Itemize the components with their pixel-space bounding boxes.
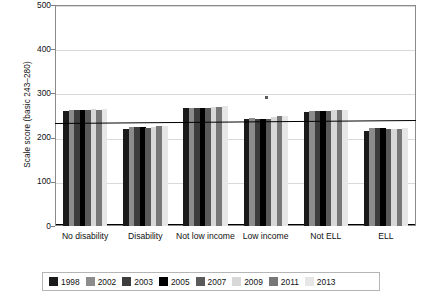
legend-label: 2009 <box>244 277 263 287</box>
y-tick-mark-400 <box>51 49 55 50</box>
bar-chart: Scale score (basic 243–280) 010020030040… <box>0 0 423 306</box>
gridline-200 <box>56 139 415 140</box>
y-tick-mark-0 <box>51 226 55 227</box>
legend-label: 2007 <box>208 277 227 287</box>
y-tick-label-300: 300 <box>11 89 51 97</box>
legend-swatch-icon <box>305 277 314 286</box>
gridline-100 <box>56 183 415 184</box>
gridline-300 <box>56 94 415 95</box>
y-tick-mark-300 <box>51 93 55 94</box>
legend-label: 2011 <box>281 277 299 287</box>
y-tick-mark-100 <box>51 182 55 183</box>
legend-item[interactable]: 2005 <box>159 277 190 287</box>
stray-mark <box>265 96 268 99</box>
x-label-ell: ELL <box>348 231 423 242</box>
y-tick-label-200: 200 <box>11 133 51 141</box>
y-tick-label-100: 100 <box>11 177 51 185</box>
gridline-400 <box>56 50 415 51</box>
legend-swatch-icon <box>159 277 168 286</box>
y-tick-mark-200 <box>51 138 55 139</box>
y-tick-label-0: 0 <box>11 222 51 230</box>
y-tick-label-500: 500 <box>11 1 51 9</box>
legend-label: 2013 <box>317 277 336 287</box>
y-axis-title: Scale score (basic 243–280) <box>23 30 32 200</box>
legend-label: 2003 <box>134 277 153 287</box>
gridline-500 <box>56 6 415 7</box>
legend-label: 2005 <box>171 277 190 287</box>
legend-label: 2002 <box>98 277 117 287</box>
legend-swatch-icon <box>269 277 278 286</box>
legend-item[interactable]: 2007 <box>196 277 227 287</box>
legend-label: 1998 <box>61 277 80 287</box>
x-axis-line <box>56 224 415 225</box>
legend-item[interactable]: 2011 <box>269 277 299 287</box>
legend-swatch-icon <box>232 277 241 286</box>
legend-swatch-icon <box>86 277 95 286</box>
legend-item[interactable]: 2009 <box>232 277 263 287</box>
legend-swatch-icon <box>122 277 131 286</box>
chart-legend: 19982002200320052007200920112013 <box>42 272 380 291</box>
legend-item[interactable]: 2013 <box>305 277 336 287</box>
legend-item[interactable]: 2002 <box>86 277 117 287</box>
plot-area <box>55 5 416 226</box>
legend-item[interactable]: 1998 <box>49 277 80 287</box>
legend-swatch-icon <box>49 277 58 286</box>
y-tick-mark-500 <box>51 5 55 6</box>
legend-item[interactable]: 2003 <box>122 277 153 287</box>
y-tick-label-400: 400 <box>11 45 51 53</box>
legend-swatch-icon <box>196 277 205 286</box>
